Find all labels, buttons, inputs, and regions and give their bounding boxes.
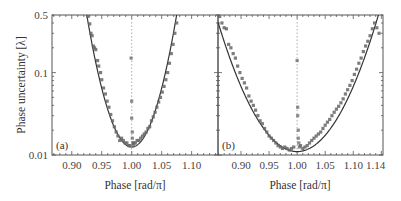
fit-curve: [52, 0, 218, 147]
data-point: [355, 68, 358, 71]
x-tick-label: 1.05: [316, 159, 336, 171]
data-point: [162, 85, 165, 88]
data-point: [254, 109, 257, 112]
data-point: [144, 130, 147, 133]
data-point-near-pi: [297, 141, 300, 144]
x-tick-label: 1.14: [366, 159, 386, 171]
x-tick-label: 0.90: [62, 159, 82, 171]
data-point: [238, 71, 241, 74]
data-point: [161, 90, 164, 93]
plot-frame: [52, 15, 218, 155]
y-axis-label: Phase uncertainty [λ]: [15, 36, 28, 134]
data-point-near-pi: [130, 100, 133, 103]
data-point: [375, 26, 378, 29]
data-point: [225, 27, 228, 30]
data-point: [342, 97, 345, 100]
data-point-near-pi: [298, 145, 301, 148]
x-tick-label: 0.95: [92, 159, 112, 171]
data-point: [357, 62, 360, 65]
data-point: [109, 113, 112, 116]
data-point: [220, 21, 223, 24]
data-point: [366, 40, 369, 43]
data-point-near-pi: [130, 56, 133, 59]
data-point: [258, 119, 261, 122]
data-point: [170, 52, 173, 55]
data-point: [333, 111, 336, 114]
data-point: [157, 100, 160, 103]
data-point-near-pi: [132, 144, 135, 147]
figure: 0.900.951.001.051.100.010.10.5(a)0.900.9…: [0, 0, 401, 201]
data-point: [166, 71, 169, 74]
data-point-near-pi: [296, 106, 299, 109]
data-point-near-pi: [130, 117, 133, 120]
plot-frame: [218, 15, 383, 155]
panels-group: 0.900.951.001.051.100.010.10.5(a)0.900.9…: [29, 0, 386, 171]
data-point: [236, 64, 239, 67]
panel-tag-b: (b): [222, 139, 235, 152]
x-axis-label-b: Phase [rad/π]: [269, 179, 330, 191]
data-point: [96, 59, 99, 62]
data-point: [245, 86, 248, 89]
data-point: [351, 79, 354, 82]
data-point: [100, 78, 103, 81]
data-point: [232, 52, 235, 55]
data-point: [153, 111, 156, 114]
data-point-near-pi: [131, 137, 134, 140]
data-point: [263, 127, 266, 130]
x-tick-label: 0.90: [231, 159, 251, 171]
data-point: [115, 130, 118, 133]
data-point: [368, 34, 371, 37]
data-point: [150, 119, 153, 122]
x-tick-label: 1.10: [182, 159, 202, 171]
data-point: [106, 100, 109, 103]
y-tick-label: 0.5: [34, 9, 48, 21]
data-point: [256, 114, 259, 117]
data-point: [148, 125, 151, 128]
data-point: [373, 21, 376, 24]
data-point: [265, 130, 268, 133]
data-point: [94, 48, 97, 51]
data-point: [159, 96, 162, 99]
data-point: [292, 145, 295, 148]
x-tick-label: 1.05: [152, 159, 172, 171]
data-point: [252, 104, 255, 107]
data-point: [348, 84, 351, 87]
data-point: [339, 101, 342, 104]
data-point: [319, 130, 322, 133]
data-point: [371, 27, 374, 30]
data-point: [243, 81, 246, 84]
data-point: [91, 34, 94, 37]
data-point: [128, 144, 131, 147]
data-point: [104, 92, 107, 95]
data-point: [330, 114, 333, 117]
data-point: [116, 134, 119, 137]
data-point: [261, 122, 264, 125]
data-point: [86, 15, 89, 18]
data-point: [173, 32, 176, 35]
data-point-near-pi: [297, 129, 300, 132]
data-point-near-pi: [297, 137, 300, 140]
data-point: [88, 22, 91, 25]
data-point: [241, 77, 244, 80]
data-point: [360, 56, 363, 59]
data-point: [377, 32, 380, 35]
data-point: [107, 106, 110, 109]
x-tick-label: 1.00: [122, 159, 142, 171]
data-point: [344, 92, 347, 95]
data-point: [346, 88, 349, 91]
data-point: [250, 100, 253, 103]
data-point-near-pi: [131, 130, 134, 133]
data-point: [353, 73, 356, 76]
panel-a: 0.900.951.001.051.100.010.10.5(a): [29, 0, 218, 171]
plot-area: [218, 0, 383, 155]
plot-area: [52, 0, 218, 155]
data-point-near-pi: [296, 59, 299, 62]
fit-curve: [218, 0, 383, 152]
data-point: [171, 43, 174, 46]
data-point: [218, 15, 221, 18]
data-point: [328, 118, 331, 121]
data-point: [111, 119, 114, 122]
x-axis-label-a: Phase [rad/π]: [104, 179, 165, 191]
data-point: [97, 64, 100, 67]
data-point: [324, 124, 327, 127]
